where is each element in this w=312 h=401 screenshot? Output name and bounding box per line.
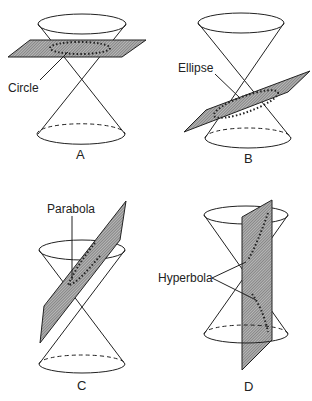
panel-letter-b: B bbox=[244, 151, 253, 166]
cutting-plane bbox=[242, 200, 272, 370]
cutting-plane bbox=[184, 71, 310, 132]
label-circle: Circle bbox=[8, 81, 39, 95]
panel-d bbox=[204, 200, 288, 370]
panel-letter-a: A bbox=[76, 147, 85, 162]
panel-a bbox=[8, 14, 146, 144]
cutting-plane bbox=[40, 201, 126, 343]
label-hyperbola: Hyperbola bbox=[158, 271, 213, 285]
panel-letter-d: D bbox=[244, 379, 253, 394]
panel-c bbox=[39, 201, 126, 373]
panel-b bbox=[184, 13, 310, 148]
label-ellipse: Ellipse bbox=[178, 61, 214, 75]
top-nappe-rim bbox=[38, 14, 126, 34]
bottom-nappe-rim bbox=[37, 134, 125, 144]
conic-sections-diagram: Circle A Ellipse B Parabola C bbox=[0, 0, 312, 401]
label-parabola: Parabola bbox=[47, 202, 95, 216]
panel-letter-c: C bbox=[77, 378, 86, 393]
